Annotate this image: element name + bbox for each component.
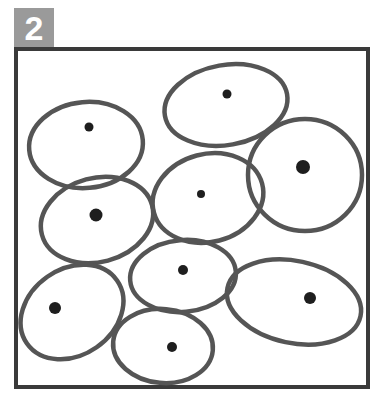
- cell-membrane: [219, 248, 369, 356]
- cell: [248, 119, 362, 231]
- cell-diagram: [0, 0, 380, 399]
- cell-membrane: [110, 305, 216, 387]
- cell: [2, 245, 141, 379]
- cell: [219, 248, 369, 356]
- cell-membrane: [2, 245, 141, 379]
- cell-nucleus: [49, 302, 61, 314]
- cell-nucleus: [167, 342, 177, 352]
- cell: [110, 305, 216, 387]
- cell-membrane: [127, 236, 239, 317]
- cell-membrane: [248, 119, 362, 231]
- cell-nucleus: [85, 123, 94, 132]
- cell-nucleus: [90, 209, 103, 222]
- cell-nucleus: [178, 265, 188, 275]
- cell-nucleus: [304, 292, 316, 304]
- cell: [127, 236, 239, 317]
- cell-nucleus: [223, 90, 232, 99]
- cell-membrane: [158, 55, 294, 155]
- cell: [158, 55, 294, 155]
- cell-nucleus: [296, 160, 310, 174]
- cells-group: [2, 55, 369, 387]
- cell-nucleus: [197, 190, 205, 198]
